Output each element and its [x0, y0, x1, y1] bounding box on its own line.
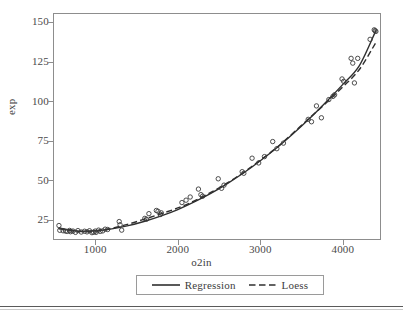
legend-label-loess: Loess	[282, 280, 309, 291]
x-tick-mark	[95, 240, 96, 245]
y-tick-label: 150	[32, 16, 49, 27]
data-point	[309, 120, 313, 124]
data-point	[119, 228, 123, 232]
legend-label-regression: Regression	[185, 280, 236, 291]
regression-line	[59, 31, 376, 232]
data-point	[271, 139, 275, 143]
x-tick-mark	[343, 240, 344, 245]
scatter-points	[57, 28, 378, 235]
footer-rule-light	[0, 309, 403, 310]
legend-swatch-solid-line	[152, 281, 180, 289]
x-tick-label: 4000	[318, 244, 368, 255]
plot-frame	[53, 13, 381, 240]
footer-rule-dark	[0, 306, 403, 307]
data-point	[352, 81, 356, 85]
data-point	[356, 56, 360, 60]
y-tick-mark	[48, 141, 53, 142]
loess-line	[59, 43, 376, 232]
data-point	[184, 198, 188, 202]
x-tick-label: 3000	[235, 244, 285, 255]
y-tick-mark	[48, 180, 53, 181]
y-tick-mark	[48, 62, 53, 63]
data-point	[196, 187, 200, 191]
x-tick-mark	[260, 240, 261, 245]
x-tick-label: 1000	[70, 244, 120, 255]
data-point	[57, 223, 61, 227]
y-tick-mark	[48, 22, 53, 23]
y-axis-title: exp	[6, 99, 17, 115]
figure-container: 255075100125150 1000200030004000 o2in ex…	[0, 0, 403, 312]
legend-entry-loess: Loess	[249, 280, 309, 291]
data-point	[250, 156, 254, 160]
x-tick-mark	[178, 240, 179, 245]
data-point	[319, 116, 323, 120]
y-tick-mark	[48, 220, 53, 221]
y-tick-label: 125	[32, 56, 49, 67]
data-point	[314, 104, 318, 108]
y-tick-label: 100	[32, 96, 49, 107]
legend-swatch-dashed-line	[249, 281, 277, 289]
data-point	[351, 61, 355, 65]
data-point	[349, 56, 353, 60]
y-tick-mark	[48, 101, 53, 102]
x-tick-label: 2000	[153, 244, 203, 255]
data-point	[147, 211, 151, 215]
x-axis-title: o2in	[0, 256, 403, 268]
data-point	[180, 200, 184, 204]
data-point	[188, 195, 192, 199]
chart-legend: Regression Loess	[136, 275, 324, 295]
plot-canvas	[54, 14, 380, 239]
legend-entry-regression: Regression	[152, 280, 236, 291]
data-point	[216, 177, 220, 181]
